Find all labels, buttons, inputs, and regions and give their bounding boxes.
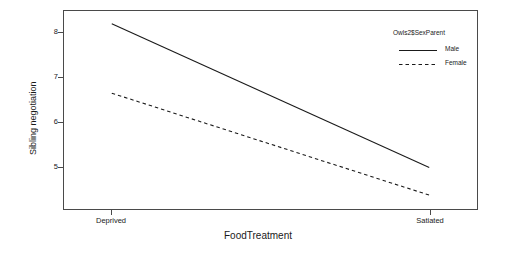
y-tick-label-8: 8: [44, 28, 58, 36]
series-line-female: [112, 93, 429, 195]
x-tick-label-deprived: Deprived: [81, 216, 141, 225]
legend-swatch-male-solid-icon: [399, 50, 437, 51]
x-tick-label-satiated: Satiated: [400, 216, 460, 225]
series-line-male: [112, 24, 429, 168]
legend-item-female: Female: [399, 59, 489, 71]
plot-area: Owls2$SexParent Male Female: [63, 10, 478, 210]
y-tick-label-5: 5: [44, 163, 58, 171]
legend-item-male: Male: [399, 45, 489, 57]
chart-page: 8 7 6 5 Sibling negotiation Owls2$SexPar…: [0, 0, 516, 254]
x-tick-mark-deprived: [111, 210, 112, 215]
legend-swatch-female-dashed-icon: [399, 63, 437, 66]
legend: Owls2$SexParent Male Female: [393, 29, 489, 75]
x-tick-mark-satiated: [430, 210, 431, 215]
y-tick-label-7: 7: [44, 73, 58, 81]
legend-label-female: Female: [445, 59, 467, 66]
y-axis-tick-labels: 8 7 6 5: [40, 10, 58, 210]
y-tick-label-6: 6: [44, 118, 58, 126]
x-axis-title: FoodTreatment: [0, 230, 516, 241]
legend-title: Owls2$SexParent: [393, 29, 445, 36]
legend-label-male: Male: [445, 45, 459, 52]
y-axis-title: Sibling negotiation: [28, 81, 38, 155]
